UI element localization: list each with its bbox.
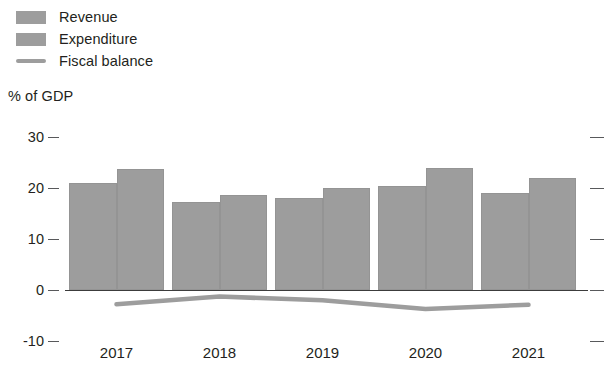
y-axis-tick-mark xyxy=(48,341,59,342)
y-axis-tick-label: 10 xyxy=(4,232,44,247)
chart-plot-area: 3020100-10 20172018201920202021 xyxy=(0,0,616,379)
y-axis-tick-mark xyxy=(590,239,604,240)
y-axis-tick-label: 30 xyxy=(4,130,44,145)
x-axis-tick-label-2018: 2018 xyxy=(180,345,260,360)
bar-revenue-2017 xyxy=(69,183,117,290)
bar-revenue-2018 xyxy=(172,202,220,290)
y-axis-tick-mark xyxy=(48,290,59,291)
bar-expenditure-2020 xyxy=(426,168,474,290)
bar-expenditure-2017 xyxy=(117,169,165,290)
y-axis-tick-mark xyxy=(48,188,59,189)
x-axis-tick-label-2020: 2020 xyxy=(386,345,466,360)
bar-expenditure-2021 xyxy=(529,178,577,290)
y-axis-tick-label: 0 xyxy=(4,283,44,298)
zero-baseline xyxy=(65,290,588,291)
y-axis-tick-mark xyxy=(48,239,59,240)
bar-expenditure-2018 xyxy=(220,195,268,290)
y-axis-tick-mark xyxy=(590,341,604,342)
x-axis-tick-label-2019: 2019 xyxy=(283,345,363,360)
bar-revenue-2019 xyxy=(275,198,323,290)
y-axis-tick-mark xyxy=(590,188,604,189)
y-axis-tick-mark xyxy=(48,137,59,138)
bar-revenue-2020 xyxy=(378,186,426,290)
x-axis-tick-label-2017: 2017 xyxy=(77,345,157,360)
bar-revenue-2021 xyxy=(481,193,529,290)
bar-expenditure-2019 xyxy=(323,188,371,290)
y-axis-tick-label: -10 xyxy=(4,334,44,349)
y-axis-tick-mark xyxy=(590,137,604,138)
x-axis-tick-label-2021: 2021 xyxy=(489,345,569,360)
y-axis-tick-label: 20 xyxy=(4,181,44,196)
y-axis-tick-mark xyxy=(590,290,604,291)
fiscal-balance-polyline xyxy=(117,297,529,309)
